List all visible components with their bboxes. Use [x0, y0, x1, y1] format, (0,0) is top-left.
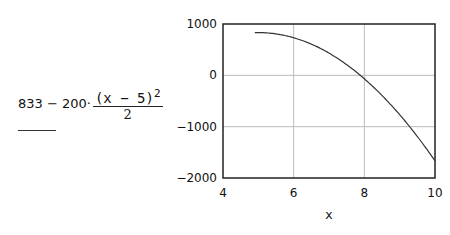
x-tick-label: 8: [361, 186, 369, 200]
y-tick-label: 0: [209, 68, 217, 82]
y-tick-label: −2000: [176, 171, 217, 185]
x-tick-label: 10: [427, 186, 442, 200]
plot-frame: [223, 24, 435, 178]
plot[interactable]: 4681010000−1000−2000x: [0, 0, 450, 235]
function-curve: [255, 33, 435, 161]
x-axis-label[interactable]: x: [325, 207, 333, 222]
y-tick-label: 1000: [186, 17, 217, 31]
x-tick-label: 6: [290, 186, 298, 200]
y-tick-label: −1000: [176, 120, 217, 134]
x-tick-label: 4: [219, 186, 227, 200]
